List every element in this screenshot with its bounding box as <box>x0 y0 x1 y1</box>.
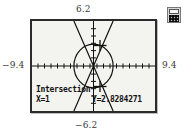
window-ymax-label: 6.2 <box>76 4 91 14</box>
calculator-icon-display <box>169 9 179 14</box>
window-xmin-label: −9.4 <box>2 60 24 70</box>
y-value-readout: Y=2.8284271 <box>92 95 142 104</box>
calculator-icon-keys <box>169 15 179 22</box>
window-ymin-label: −6.2 <box>75 120 97 130</box>
intersection-mode-label: Intersection <box>36 85 90 94</box>
calculator-screen: Intersection X=1 Y=2.8284271 <box>30 19 157 113</box>
calculator-icon[interactable] <box>167 7 181 23</box>
x-value-readout: X=1 <box>36 95 50 104</box>
calculator-screenshot: 6.2 −6.2 −9.4 9.4 <box>0 0 188 138</box>
window-xmax-label: 9.4 <box>162 60 177 70</box>
